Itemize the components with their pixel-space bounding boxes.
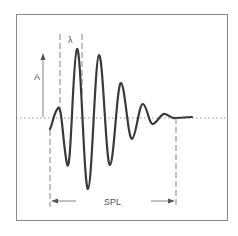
spl-arrowhead-right-icon <box>168 199 175 204</box>
amplitude-label: A <box>34 72 40 82</box>
spl-arrowhead-left-icon <box>51 199 58 204</box>
amplitude-arrowhead-icon <box>41 53 46 60</box>
spl-label: SPL <box>104 197 121 207</box>
wavelength-label: λ <box>68 35 73 45</box>
pulse-waveform <box>50 49 192 189</box>
pulse-diagram: A λ SPL <box>0 0 238 236</box>
